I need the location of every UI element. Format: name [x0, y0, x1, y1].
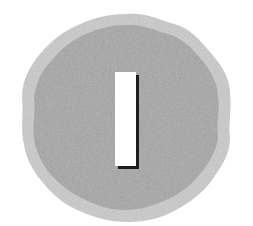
seal-badge: I	[0, 0, 253, 226]
badge-graphic	[0, 0, 253, 226]
letter-i-bar	[115, 72, 136, 166]
